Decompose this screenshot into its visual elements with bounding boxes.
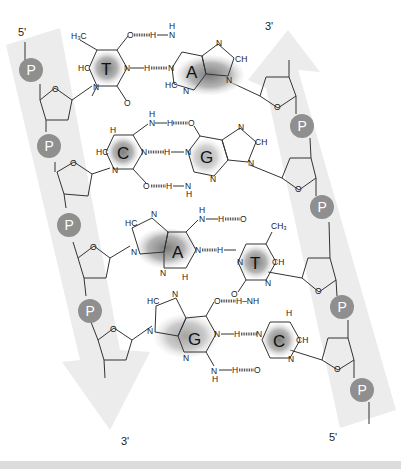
svg-text:O: O bbox=[70, 158, 77, 168]
svg-text:O: O bbox=[295, 184, 302, 194]
svg-text:O: O bbox=[274, 102, 281, 112]
svg-text:N: N bbox=[183, 353, 189, 363]
svg-text:N: N bbox=[172, 289, 178, 299]
svg-text:P: P bbox=[358, 382, 367, 398]
svg-text:H: H bbox=[169, 21, 175, 31]
svg-text:CH₃: CH₃ bbox=[271, 221, 287, 231]
svg-text:CH: CH bbox=[272, 257, 284, 267]
svg-text:N: N bbox=[210, 174, 216, 184]
svg-text:N: N bbox=[141, 147, 147, 157]
svg-text:O: O bbox=[124, 98, 131, 108]
base-letter: T bbox=[101, 60, 111, 79]
svg-text:H₃C: H₃C bbox=[71, 31, 87, 41]
svg-text:O: O bbox=[127, 30, 134, 40]
svg-text:N: N bbox=[112, 165, 118, 175]
base-pair-1: H₃C O O HC N N T H N H H N HC N N CH N A bbox=[71, 21, 247, 108]
base-letter: C bbox=[117, 144, 129, 163]
svg-text:N: N bbox=[256, 329, 262, 339]
svg-text:H: H bbox=[182, 272, 188, 282]
base-letter: G bbox=[200, 148, 213, 167]
svg-text:P: P bbox=[298, 118, 307, 134]
svg-text:H: H bbox=[167, 118, 173, 128]
svg-text:O: O bbox=[90, 242, 97, 252]
svg-text:H: H bbox=[166, 181, 172, 191]
base-pair-2: H HC N N C N H H O H O H N H N N CH N N … bbox=[96, 109, 267, 199]
svg-text:O: O bbox=[240, 214, 247, 224]
base-letter: G bbox=[188, 330, 201, 349]
svg-text:N: N bbox=[199, 214, 205, 224]
svg-text:HC: HC bbox=[147, 296, 159, 306]
svg-text:P: P bbox=[86, 303, 95, 319]
svg-text:N: N bbox=[216, 38, 222, 48]
base-letter: C bbox=[273, 332, 285, 351]
svg-text:CH: CH bbox=[296, 335, 308, 345]
svg-text:N: N bbox=[160, 268, 166, 278]
svg-text:HC: HC bbox=[125, 218, 137, 228]
svg-text:N: N bbox=[168, 63, 174, 73]
svg-text:CH: CH bbox=[255, 137, 267, 147]
base-pair-3: HC N N N H A N H H O N H N CH N CH₃ O T bbox=[125, 205, 287, 299]
dna-diagram: 5' 3' 3' 5' O O O O P P P bbox=[0, 0, 401, 469]
svg-text:N: N bbox=[93, 82, 99, 92]
svg-text:O: O bbox=[254, 365, 261, 375]
svg-text:N: N bbox=[226, 75, 232, 85]
svg-text:N: N bbox=[183, 86, 189, 96]
svg-text:H: H bbox=[199, 205, 205, 215]
base-pair-4: HC N N N G O H–NH N H N H H O H CH N N C bbox=[147, 289, 308, 384]
svg-text:O: O bbox=[52, 84, 59, 94]
base-letter: T bbox=[250, 254, 260, 273]
svg-text:HC: HC bbox=[165, 80, 177, 90]
svg-text:H–NH: H–NH bbox=[236, 296, 259, 306]
svg-text:P: P bbox=[27, 62, 36, 78]
left-strand-3prime-label: 3' bbox=[121, 435, 129, 447]
svg-text:N: N bbox=[237, 257, 243, 267]
dna-diagram-svg: 5' 3' 3' 5' O O O O P P P bbox=[0, 0, 401, 469]
svg-text:N: N bbox=[169, 30, 175, 40]
base-letter: A bbox=[172, 243, 184, 262]
svg-text:H: H bbox=[164, 147, 170, 157]
base-letter: A bbox=[186, 63, 198, 82]
svg-text:N: N bbox=[265, 278, 271, 288]
svg-text:O: O bbox=[143, 181, 150, 191]
svg-text:N: N bbox=[131, 247, 137, 257]
svg-text:N: N bbox=[214, 329, 220, 339]
svg-text:P: P bbox=[318, 199, 327, 215]
svg-text:O: O bbox=[334, 364, 341, 374]
right-strand-3prime-label: 3' bbox=[265, 20, 273, 32]
svg-text:N: N bbox=[124, 63, 130, 73]
svg-text:O: O bbox=[214, 296, 221, 306]
svg-text:P: P bbox=[65, 217, 74, 233]
bottom-band bbox=[0, 461, 401, 469]
svg-text:H: H bbox=[150, 30, 156, 40]
svg-text:H: H bbox=[212, 374, 218, 384]
svg-text:CH: CH bbox=[235, 54, 247, 64]
svg-text:HC: HC bbox=[78, 63, 90, 73]
svg-text:N: N bbox=[147, 326, 153, 336]
svg-text:H: H bbox=[286, 308, 292, 318]
svg-text:P: P bbox=[338, 299, 347, 315]
svg-text:N: N bbox=[151, 209, 157, 219]
svg-text:N: N bbox=[248, 158, 254, 168]
svg-text:H: H bbox=[149, 109, 155, 119]
svg-text:P: P bbox=[45, 138, 54, 154]
svg-text:H: H bbox=[217, 245, 223, 255]
svg-text:N: N bbox=[288, 354, 294, 364]
svg-text:O: O bbox=[110, 324, 117, 334]
svg-text:H: H bbox=[218, 214, 224, 224]
left-strand-5prime-label: 5' bbox=[18, 26, 26, 38]
svg-text:H: H bbox=[186, 189, 192, 199]
svg-text:H: H bbox=[110, 125, 116, 135]
svg-text:N: N bbox=[185, 147, 191, 157]
svg-text:H: H bbox=[234, 329, 240, 339]
svg-text:H: H bbox=[144, 63, 150, 73]
svg-text:N: N bbox=[195, 245, 201, 255]
svg-text:H: H bbox=[232, 365, 238, 375]
svg-text:N: N bbox=[149, 118, 155, 128]
right-strand-5prime-label: 5' bbox=[329, 431, 337, 443]
svg-text:N: N bbox=[238, 122, 244, 132]
svg-text:HC: HC bbox=[96, 147, 108, 157]
svg-text:O: O bbox=[315, 286, 322, 296]
